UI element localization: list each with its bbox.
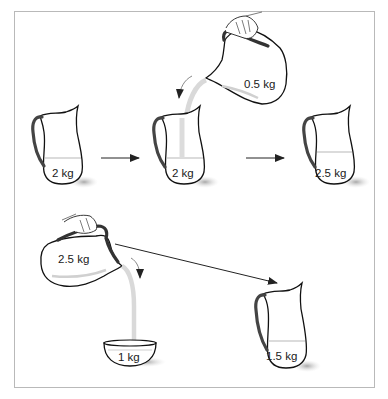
arrow-diagonal-icon <box>115 244 277 283</box>
pitcher-result-bottom-label: 1.5 kg <box>266 350 297 362</box>
diagram-canvas <box>0 0 388 399</box>
pouring-pitcher-large-icon <box>41 214 122 286</box>
pitcher-receiving-label: 2 kg <box>172 167 194 179</box>
pour-direction-icon <box>131 258 140 278</box>
pouring-pitcher-small-label: 0.5 kg <box>244 78 275 90</box>
pouring-pitcher-large-label: 2.5 kg <box>58 253 89 265</box>
pitcher-result-top-label: 2.5 kg <box>315 167 346 179</box>
pour-stream-icon <box>122 266 134 342</box>
bowl-label: 1 kg <box>118 351 140 363</box>
pitcher-start-label: 2 kg <box>52 167 74 179</box>
pouring-pitcher-small-icon <box>206 12 287 104</box>
hand-icon <box>64 215 97 233</box>
